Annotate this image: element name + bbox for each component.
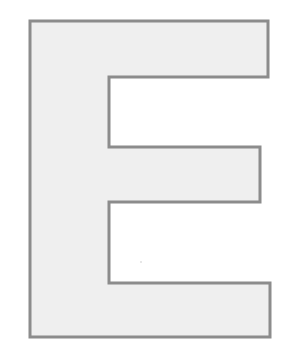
speck-dot <box>140 261 142 263</box>
letter-e-shape <box>30 21 270 337</box>
letter-e-outline <box>0 0 299 354</box>
